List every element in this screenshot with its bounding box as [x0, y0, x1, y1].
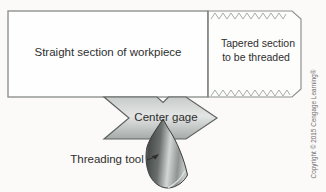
- tapered-section-label-line2: to be threaded: [222, 51, 290, 63]
- copyright-notice: Copyright © 2015 Cengage Learning®: [310, 69, 318, 178]
- threading-tool-label: Threading tool: [70, 153, 144, 165]
- center-gage-label: Center gage: [134, 111, 197, 123]
- thread-cutting-diagram: Straight section of workpiece Tapered se…: [0, 0, 326, 192]
- tapered-section-label-line1: Tapered section: [221, 37, 295, 49]
- straight-section-label: Straight section of workpiece: [34, 46, 181, 58]
- diagram-canvas: Straight section of workpiece Tapered se…: [0, 0, 326, 192]
